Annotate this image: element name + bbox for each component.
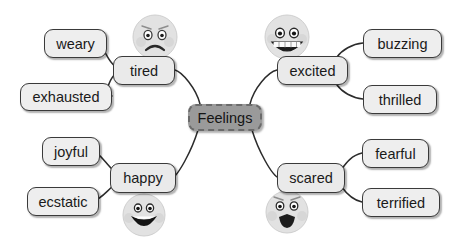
leaf-node-exhausted[interactable]: exhausted xyxy=(20,83,112,111)
sad-face-icon xyxy=(130,12,180,62)
edge-feelings-scared xyxy=(252,130,279,178)
leaf-node-fearful[interactable]: fearful xyxy=(362,139,429,168)
smiling-face-icon xyxy=(120,192,168,237)
leaf-node-ecstatic[interactable]: ecstatic xyxy=(27,187,99,216)
edge-feelings-tired xyxy=(175,70,200,104)
leaf-node-buzzing[interactable]: buzzing xyxy=(363,29,442,58)
branch-node-tired[interactable]: tired xyxy=(113,56,175,85)
branch-node-happy[interactable]: happy xyxy=(110,163,176,193)
leaf-node-weary[interactable]: weary xyxy=(44,29,107,58)
leaf-node-thrilled[interactable]: thrilled xyxy=(363,85,437,114)
mind-map-canvas: Feelings tired excited happy scared wear… xyxy=(0,0,451,237)
leaf-node-joyful[interactable]: joyful xyxy=(42,137,100,166)
branch-node-scared[interactable]: scared xyxy=(277,163,345,193)
edge-excited-thrilled xyxy=(337,85,363,99)
center-node-feelings[interactable]: Feelings xyxy=(188,104,262,131)
scared-face-icon xyxy=(262,188,312,236)
edge-scared-terrified xyxy=(341,186,362,202)
leaf-node-terrified[interactable]: terrified xyxy=(362,188,440,217)
edge-excited-buzzing xyxy=(337,43,363,57)
branch-node-excited[interactable]: excited xyxy=(277,56,348,85)
grinning-face-icon xyxy=(262,12,312,62)
edge-feelings-excited xyxy=(250,70,277,104)
